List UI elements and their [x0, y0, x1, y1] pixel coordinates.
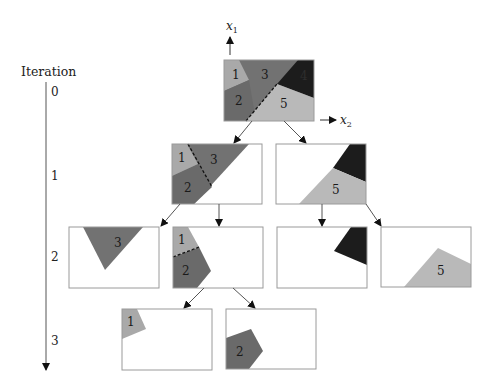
node-n2a: 3 [69, 227, 159, 288]
region-label-2: 2 [235, 94, 243, 108]
region-label-3: 3 [261, 68, 269, 82]
region-label-1: 1 [178, 233, 186, 247]
region-label-5: 5 [332, 183, 340, 197]
node-root: 1 3 4 2 5 [224, 60, 314, 121]
node-n3a: 1 [122, 309, 212, 370]
edge-n2b-n3b [233, 288, 255, 308]
edge-n1a-n2a [161, 204, 180, 226]
edge-n2b-n3a [184, 288, 204, 308]
node-n2b: 1 2 [173, 227, 263, 288]
iteration-tree-diagram: Iteration 0 1 2 3 x1 x2 1 [0, 0, 496, 392]
node-n2d: 5 [381, 227, 471, 287]
region-label-2: 2 [182, 264, 190, 278]
region-label-2: 2 [236, 345, 244, 359]
region-label-3: 3 [114, 236, 122, 250]
region-label-4: 4 [300, 69, 308, 83]
node-n1b: 5 [276, 144, 366, 204]
node-n1a: 1 3 2 [172, 144, 262, 204]
region-label-1: 1 [178, 151, 186, 165]
region-label-1: 1 [127, 315, 135, 329]
region-label-5: 5 [280, 97, 288, 111]
diagram-canvas: 1 3 4 2 5 1 3 2 5 [0, 0, 496, 392]
region-label-5: 5 [437, 264, 445, 278]
region-label-3: 3 [210, 153, 218, 167]
edge-root-n1a [234, 121, 252, 143]
edge-root-n1b [284, 121, 306, 143]
region-label-1: 1 [232, 68, 240, 82]
node-n3b: 2 [226, 309, 316, 369]
edge-n1b-n2d [366, 204, 381, 226]
node-n2c [277, 227, 367, 288]
region-label-2: 2 [184, 181, 192, 195]
